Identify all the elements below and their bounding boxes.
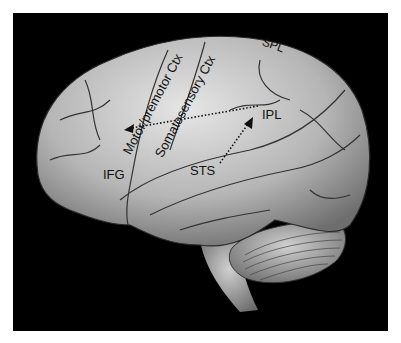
label-ifg: IFG	[103, 167, 125, 182]
label-sts: STS	[190, 163, 215, 178]
label-ipl: IPL	[262, 107, 282, 122]
